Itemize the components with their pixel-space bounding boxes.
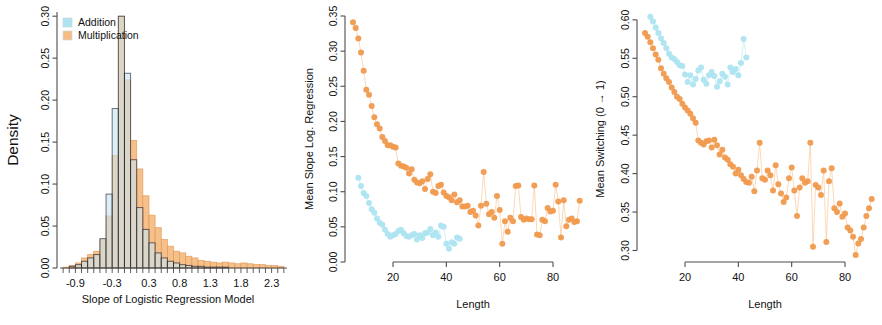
point-multiplication	[422, 186, 428, 192]
bar-addition	[149, 243, 155, 268]
point-addition	[733, 66, 739, 72]
histogram-bars	[63, 16, 284, 268]
point-multiplication	[847, 227, 853, 233]
bar-addition	[155, 253, 161, 268]
bar-addition	[161, 258, 167, 268]
bar-addition	[124, 73, 130, 268]
panel-mean-switching: 0.300.350.400.450.500.550.6020406080Leng…	[591, 0, 882, 325]
y-tick-label: 0.50	[619, 86, 631, 107]
point-multiplication	[558, 234, 564, 240]
point-multiplication	[837, 201, 843, 207]
mean-switching-svg: 0.300.350.400.450.500.550.6020406080Leng…	[591, 0, 882, 325]
point-multiplication	[499, 241, 505, 247]
point-multiplication	[826, 178, 832, 184]
point-multiplication	[658, 65, 664, 71]
x-tick-label: -0.3	[103, 277, 122, 289]
point-multiplication	[353, 25, 359, 31]
point-addition	[661, 40, 667, 46]
y-tick-label: 0.40	[619, 163, 631, 184]
point-multiplication	[537, 232, 543, 238]
point-multiplication	[853, 252, 859, 258]
y-tick-label: 0.05	[327, 216, 339, 237]
point-addition	[725, 81, 731, 87]
x-tick-label: 1.8	[233, 277, 248, 289]
bar-multiplication	[229, 263, 235, 268]
x-tick-label: 40	[732, 271, 744, 283]
point-multiplication	[438, 182, 444, 188]
point-multiplication	[706, 138, 712, 144]
point-multiplication	[693, 120, 699, 126]
point-multiplication	[823, 239, 829, 245]
point-addition	[687, 72, 693, 78]
bar-addition	[88, 258, 94, 268]
point-multiplication	[369, 103, 375, 109]
point-multiplication	[350, 19, 356, 25]
point-multiplication	[807, 140, 813, 146]
point-multiplication	[542, 218, 548, 224]
y-axis-title: Mean Switching (0 → 1)	[594, 80, 606, 197]
point-multiplication	[433, 190, 439, 196]
point-multiplication	[773, 162, 779, 168]
point-multiplication	[505, 229, 511, 235]
point-multiplication	[749, 174, 755, 180]
point-multiplication	[789, 164, 795, 170]
point-multiplication	[465, 203, 471, 209]
x-tick-label: 60	[786, 271, 798, 283]
y-tick-label: 0.25	[39, 48, 51, 69]
y-tick-label: 0.20	[39, 90, 51, 111]
data-points	[350, 19, 583, 251]
point-multiplication	[714, 142, 720, 148]
point-multiplication	[767, 172, 773, 178]
point-multiplication	[858, 236, 864, 242]
point-multiplication	[555, 199, 561, 205]
point-addition	[711, 73, 717, 79]
point-multiplication	[783, 194, 789, 200]
point-multiplication	[489, 209, 495, 215]
point-multiplication	[757, 140, 763, 146]
point-multiplication	[791, 188, 797, 194]
y-tick-label: 0.30	[327, 41, 339, 62]
point-multiplication	[366, 92, 372, 98]
point-multiplication	[409, 166, 415, 172]
point-multiplication	[818, 192, 824, 198]
y-tick-label: 0.35	[327, 6, 339, 27]
x-tick-label: 60	[494, 271, 506, 283]
point-addition	[446, 246, 452, 252]
point-multiplication	[834, 209, 840, 215]
point-multiplication	[711, 137, 717, 143]
point-addition	[738, 60, 744, 66]
x-tick-label: 20	[679, 271, 691, 283]
point-addition	[355, 175, 361, 181]
point-addition	[371, 210, 377, 216]
y-tick-label: 0.60	[619, 9, 631, 30]
point-multiplication	[869, 196, 875, 202]
point-addition	[427, 226, 433, 232]
point-addition	[358, 183, 364, 189]
point-multiplication	[358, 50, 364, 56]
point-addition	[653, 25, 659, 31]
point-multiplication	[491, 215, 497, 221]
point-multiplication	[377, 125, 383, 131]
x-axis-title: Length	[748, 298, 782, 310]
point-multiplication	[778, 191, 784, 197]
x-axis-title: Slope of Logistic Regression Model	[82, 293, 254, 305]
point-multiplication	[866, 205, 872, 211]
bar-addition	[82, 261, 88, 268]
y-tick-label: 0.30	[619, 240, 631, 261]
bar-addition	[167, 261, 173, 268]
point-addition	[741, 36, 747, 42]
point-addition	[735, 72, 741, 78]
point-addition	[698, 65, 704, 71]
point-multiplication	[650, 45, 656, 51]
point-addition	[411, 231, 417, 237]
point-addition	[743, 55, 749, 61]
point-multiplication	[709, 144, 715, 150]
y-axis-title: Density	[4, 114, 21, 166]
x-tick-label: 1.3	[203, 277, 218, 289]
point-multiplication	[497, 207, 503, 213]
x-tick-label: 0.8	[172, 277, 187, 289]
point-multiplication	[449, 197, 455, 203]
bar-addition	[137, 208, 143, 268]
point-multiplication	[553, 182, 559, 188]
point-multiplication	[529, 216, 535, 222]
